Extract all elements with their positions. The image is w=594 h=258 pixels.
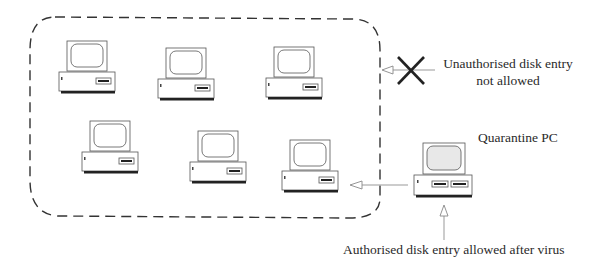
quarantine-pc	[414, 143, 472, 198]
network-pc-1	[59, 41, 115, 94]
network-pc-2	[158, 48, 214, 101]
authorised-entry-label: Authorised disk entry allowed after viru…	[343, 241, 565, 258]
blocked-entry-label-line1: Unauthorised disk entry	[438, 55, 578, 72]
network-pc-4	[82, 121, 138, 174]
blocked-entry-label-line2: not allowed	[438, 72, 578, 89]
quarantine-pc-label: Quarantine PC	[478, 129, 558, 146]
network-pc-5	[190, 131, 246, 184]
network-pc-3	[266, 47, 322, 100]
network-pc-6	[282, 140, 338, 193]
blocked-entry-label: Unauthorised disk entry not allowed	[438, 55, 578, 89]
